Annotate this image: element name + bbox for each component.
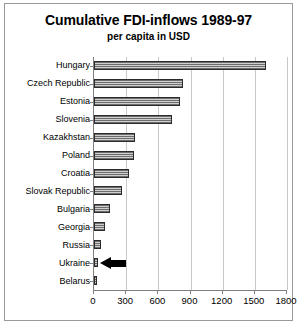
value-tick <box>190 291 191 294</box>
category-label-georgia: Georgia <box>6 222 90 232</box>
bar-row <box>94 165 287 183</box>
category-label-poland: Poland <box>6 150 90 160</box>
category-label-slovenia: Slovenia <box>6 114 90 124</box>
value-label-0: 0 <box>90 295 95 306</box>
value-axis-labels: 0300600900120015001800 <box>5 295 292 311</box>
arrow-head <box>100 257 111 269</box>
bar-row <box>94 129 287 147</box>
value-tick <box>157 291 158 294</box>
category-label-belarus: Belarus <box>6 276 90 286</box>
category-label-kazakhstan: Kazakhstan <box>6 132 90 142</box>
category-label-slovak-republic: Slovak Republic <box>6 186 90 196</box>
value-tick <box>222 291 223 294</box>
bar-row <box>94 236 287 254</box>
value-label-900: 900 <box>182 295 198 306</box>
gridline <box>287 57 288 290</box>
title-block: Cumulative FDI-inflows 1989-97 per capit… <box>5 12 292 43</box>
bar-russia[interactable] <box>94 240 101 249</box>
category-label-estonia: Estonia <box>6 96 90 106</box>
value-label-1500: 1500 <box>243 295 264 306</box>
bar-georgia[interactable] <box>94 222 105 231</box>
value-tick <box>254 291 255 294</box>
category-axis: HungaryCzech RepublicEstoniaSloveniaKaza… <box>5 57 90 290</box>
value-tick <box>286 291 287 294</box>
bar-poland[interactable] <box>94 151 134 160</box>
bar-hungary[interactable] <box>94 61 266 70</box>
bar-kazakhstan[interactable] <box>94 133 135 142</box>
bar-slovak-republic[interactable] <box>94 186 122 195</box>
category-label-ukraine: Ukraine <box>6 258 90 268</box>
category-label-russia: Russia <box>6 240 90 250</box>
bar-slovenia[interactable] <box>94 115 172 124</box>
value-label-1800: 1800 <box>275 295 296 306</box>
category-label-bulgaria: Bulgaria <box>6 204 90 214</box>
category-label-czech-republic: Czech Republic <box>6 78 90 88</box>
chart-title: Cumulative FDI-inflows 1989-97 <box>5 12 292 29</box>
bar-belarus[interactable] <box>94 276 97 285</box>
chart-frame: Cumulative FDI-inflows 1989-97 per capit… <box>4 3 293 321</box>
value-tick <box>125 291 126 294</box>
bar-croatia[interactable] <box>94 169 129 178</box>
value-label-600: 600 <box>149 295 165 306</box>
category-label-hungary: Hungary <box>6 60 90 70</box>
category-label-croatia: Croatia <box>6 168 90 178</box>
bar-ukraine[interactable] <box>94 258 98 267</box>
bar-row <box>94 147 287 165</box>
bar-row <box>94 272 287 290</box>
value-label-300: 300 <box>117 295 133 306</box>
bar-row <box>94 218 287 236</box>
bar-row <box>94 93 287 111</box>
bar-czech-republic[interactable] <box>94 79 183 88</box>
value-label-1200: 1200 <box>211 295 232 306</box>
bar-row <box>94 57 287 75</box>
bar-row <box>94 182 287 200</box>
bar-row <box>94 200 287 218</box>
bar-row <box>94 75 287 93</box>
bar-bulgaria[interactable] <box>94 204 110 213</box>
left-arrow-icon <box>100 257 126 270</box>
chart-subtitle: per capita in USD <box>5 30 292 43</box>
arrow-shaft <box>111 260 126 267</box>
bar-estonia[interactable] <box>94 97 180 106</box>
bar-row <box>94 111 287 129</box>
value-tick <box>93 291 94 294</box>
